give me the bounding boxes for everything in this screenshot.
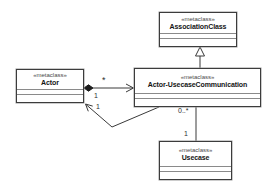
multiplicity-label-one-upper: 1 [94, 92, 98, 99]
class-box-actor-usecase-communication: «metaclass» Actor-UsecaseCommunication [134, 68, 261, 107]
name-compartment: «metaclass» Actor-UsecaseCommunication [135, 69, 260, 93]
class-name: Usecase [182, 154, 210, 161]
operations-compartment [17, 94, 83, 102]
name-compartment: «metaclass» AssociationClass [160, 13, 236, 33]
operations-compartment [160, 38, 236, 46]
multiplicity-label-one-lower: 1 [96, 103, 100, 110]
name-compartment: «metaclass» Actor [17, 70, 83, 89]
class-box-association-class: «metaclass» AssociationClass [159, 12, 237, 47]
class-name: AssociationClass [170, 23, 227, 30]
class-box-actor: «metaclass» Actor [16, 69, 84, 103]
multiplicity-label-zero-many: 0..* [178, 107, 189, 114]
class-name: Actor-UsecaseCommunication [148, 81, 247, 88]
class-box-usecase: «metaclass» Usecase [159, 141, 232, 180]
name-compartment: «metaclass» Usecase [160, 142, 231, 166]
stereotype-label: «metaclass» [33, 72, 67, 78]
generalization-triangle-icon [196, 47, 205, 56]
stereotype-label: «metaclass» [181, 74, 215, 80]
composition-connector [84, 84, 134, 92]
stereotype-label: «metaclass» [181, 16, 215, 22]
operations-compartment [160, 171, 231, 179]
multiplicity-label-one-usecase: 1 [184, 130, 188, 137]
class-name: Actor [41, 79, 59, 86]
uml-diagram-canvas: «metaclass» AssociationClass «metaclass»… [0, 0, 278, 189]
multiplicity-label-star: * [102, 76, 106, 85]
generalization-connector [196, 47, 205, 68]
stereotype-label: «metaclass» [179, 147, 213, 153]
composition-diamond-icon [84, 85, 93, 91]
operations-compartment [135, 98, 260, 106]
